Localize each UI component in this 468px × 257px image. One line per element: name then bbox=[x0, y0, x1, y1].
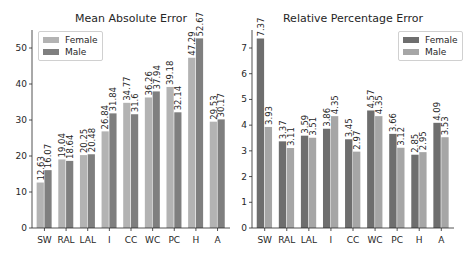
bar-female-i bbox=[323, 129, 330, 228]
bar-female-sw bbox=[257, 38, 264, 228]
x-tick-label: A bbox=[438, 235, 445, 245]
legend-label-male: Male bbox=[425, 47, 446, 57]
legend-label-female: Female bbox=[425, 35, 458, 45]
y-tick-label: 0 bbox=[241, 223, 247, 233]
y-tick-label: 6 bbox=[241, 69, 247, 79]
y-tick-label: 1 bbox=[241, 197, 247, 207]
bar-male-ral bbox=[287, 148, 294, 228]
bar-value-label: 3.53 bbox=[440, 116, 450, 135]
x-tick-label: SW bbox=[257, 235, 272, 245]
bar-female-lal bbox=[301, 136, 308, 228]
bar-value-label: 4.35 bbox=[374, 95, 384, 114]
bar-value-label: 7.37 bbox=[256, 18, 266, 37]
legend-swatch-female bbox=[403, 37, 419, 43]
bar-value-label: 4.35 bbox=[330, 95, 340, 114]
legend-item-male: Male bbox=[403, 46, 458, 58]
x-tick-label: WC bbox=[367, 235, 382, 245]
legend-swatch-male bbox=[403, 49, 419, 55]
y-tick-label: 5 bbox=[241, 94, 247, 104]
bar-male-h bbox=[419, 152, 426, 228]
bar-value-label: 2.95 bbox=[418, 131, 428, 150]
bar-male-i bbox=[331, 116, 338, 228]
rpe-chart: Relative Percentage Error 7.373.93SW3.37… bbox=[0, 0, 468, 257]
x-tick-label: PC bbox=[391, 235, 403, 245]
bar-female-cc bbox=[345, 139, 352, 228]
bar-value-label: 2.97 bbox=[352, 131, 362, 150]
chart-legend: Female Male bbox=[398, 31, 463, 61]
bar-male-sw bbox=[265, 127, 272, 228]
bar-value-label: 3.11 bbox=[286, 127, 296, 146]
bar-male-wc bbox=[375, 116, 382, 228]
bar-male-a bbox=[441, 137, 448, 228]
x-tick-label: H bbox=[416, 235, 423, 245]
x-tick-label: CC bbox=[347, 235, 360, 245]
y-tick-label: 2 bbox=[241, 172, 247, 182]
bar-male-cc bbox=[353, 152, 360, 228]
bar-female-a bbox=[433, 123, 440, 228]
bar-female-wc bbox=[367, 110, 374, 228]
y-tick-label: 3 bbox=[241, 146, 247, 156]
x-tick-label: LAL bbox=[301, 235, 317, 245]
x-tick-label: I bbox=[330, 235, 333, 245]
x-tick-label: RAL bbox=[278, 235, 295, 245]
y-tick-label: 4 bbox=[241, 120, 247, 130]
bar-male-lal bbox=[309, 138, 316, 228]
bar-male-pc bbox=[397, 148, 404, 228]
bar-value-label: 3.51 bbox=[308, 117, 318, 136]
bar-value-label: 3.93 bbox=[264, 106, 274, 125]
bar-female-pc bbox=[389, 134, 396, 228]
bar-value-label: 3.12 bbox=[396, 127, 406, 146]
y-tick-label: 7 bbox=[241, 43, 247, 53]
bar-female-h bbox=[411, 155, 418, 228]
legend-item-female: Female bbox=[403, 34, 458, 46]
bar-female-ral bbox=[279, 141, 286, 228]
